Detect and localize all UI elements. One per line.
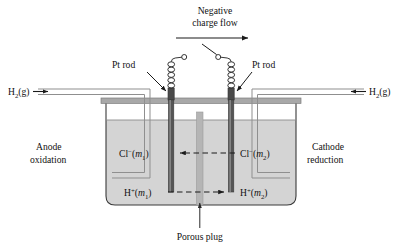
left-electrode-top-cap	[168, 88, 174, 100]
porous-plug-barrier	[197, 112, 204, 205]
right-pt-rod	[228, 100, 233, 192]
right-wire-coil	[221, 57, 235, 88]
left-pt-rod-label: Pt rod	[112, 59, 135, 70]
negative-charge-flow-line2: charge flow	[192, 17, 237, 28]
right-pt-rod-leader	[237, 72, 252, 91]
hydrogen-left-label: H+(m1)	[124, 187, 152, 200]
left-pt-rod-highlight	[169, 100, 171, 192]
electrochemical-cell-figure: Negative charge flow Pt rod Pt rod H2(g)…	[0, 0, 402, 244]
right-pt-rod-label: Pt rod	[252, 59, 275, 70]
left-wire-coil	[168, 57, 182, 88]
anode-label-line1: Anode	[36, 141, 62, 152]
left-h2-gas-label: H2(g)	[8, 86, 30, 99]
right-electrode-top-cap	[228, 88, 234, 100]
cathode-label-line2: reduction	[307, 154, 343, 165]
right-terminal-circle	[216, 55, 221, 60]
left-terminal-circle	[182, 55, 187, 60]
negative-charge-flow-line1: Negative	[198, 5, 233, 16]
right-h2-gas-label: H2(g)	[369, 86, 391, 99]
right-pt-rod-highlight	[229, 100, 231, 192]
left-pt-rod-leader	[147, 72, 166, 91]
anode-label-line2: oxidation	[30, 154, 66, 165]
left-pt-rod	[168, 100, 173, 192]
beaker-rim	[101, 98, 301, 103]
porous-plug-label: Porous plug	[177, 231, 223, 242]
charge-flow-leader-line	[202, 44, 217, 55]
hydrogen-right-label: H+(m2)	[240, 187, 268, 200]
cell-diagram-svg: Negative charge flow Pt rod Pt rod H2(g)…	[0, 0, 402, 244]
cathode-label-line1: Cathode	[312, 141, 344, 152]
